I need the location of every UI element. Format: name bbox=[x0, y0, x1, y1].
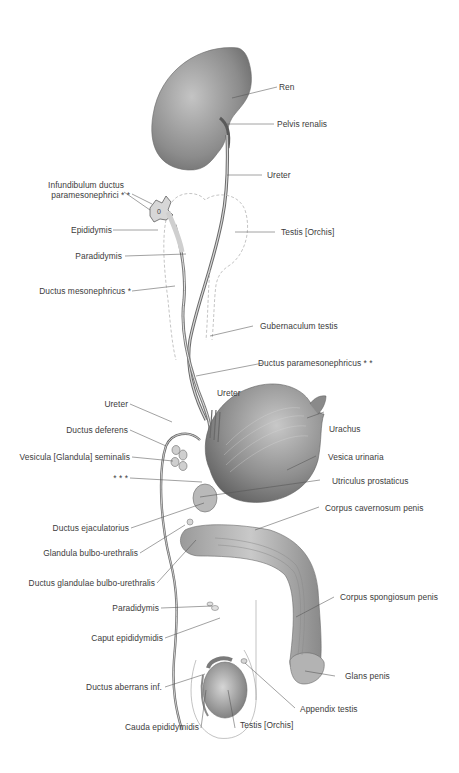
label-caput-epididymidis: Caput epididymidis bbox=[60, 633, 163, 643]
label-cauda-epididymidis: Cauda epididymidis bbox=[100, 722, 199, 732]
label-testis-top: Testis [Orchis] bbox=[281, 227, 334, 237]
label-glandula-bulbo: Glandula bulbo-urethralis bbox=[20, 548, 138, 558]
label-ductus-ejaculatorius: Ductus ejaculatorius bbox=[30, 523, 129, 533]
seminal-vesicle bbox=[171, 446, 187, 471]
label-vesica-urinaria: Vesica urinaria bbox=[328, 452, 384, 462]
testis bbox=[202, 602, 247, 718]
infundibulum: 0 bbox=[150, 196, 182, 252]
bladder bbox=[205, 384, 326, 502]
label-glans-penis: Glans penis bbox=[345, 671, 390, 681]
label-ureter-mid: Ureter bbox=[217, 388, 241, 398]
label-urachus: Urachus bbox=[329, 424, 361, 434]
anatomy-illustration: 0 bbox=[0, 0, 459, 773]
label-ureter-top: Ureter bbox=[267, 170, 291, 180]
label-appendix-testis: Appendix testis bbox=[300, 704, 358, 714]
label-triple-star: * * * bbox=[80, 473, 128, 483]
label-testis-bottom: Testis [Orchis] bbox=[240, 720, 293, 730]
label-corpus-spongiosum: Corpus spongiosum penis bbox=[340, 592, 438, 602]
label-paradidymis-bottom: Paradidymis bbox=[60, 603, 159, 613]
ductus-deferens bbox=[161, 434, 200, 730]
label-ductus-glandulae-bulbo: Ductus glandulae bulbo-urethralis bbox=[20, 578, 155, 588]
label-pelvis-renalis: Pelvis renalis bbox=[277, 119, 327, 129]
label-ureter-left: Ureter bbox=[60, 399, 128, 409]
label-corpus-cavernosum: Corpus cavernosum penis bbox=[325, 503, 423, 513]
label-ductus-paramesonephricus: Ductus paramesonephricus * * bbox=[258, 358, 373, 368]
label-ductus-aberrans: Ductus aberrans inf. bbox=[60, 682, 162, 692]
label-gubernaculum: Gubernaculum testis bbox=[260, 321, 338, 331]
label-paradidymis-top: Paradidymis bbox=[40, 251, 122, 261]
label-epididymis: Epididymis bbox=[40, 225, 112, 235]
label-ductus-mesonephricus: Ductus mesonephricus * bbox=[20, 286, 131, 296]
label-infundibulum-2: paramesonephrici * * bbox=[40, 190, 130, 200]
penis bbox=[180, 525, 324, 684]
label-ductus-deferens: Ductus deferens bbox=[40, 425, 128, 435]
label-utriculus-prostaticus: Utriculus prostaticus bbox=[332, 476, 408, 486]
kidney bbox=[152, 48, 252, 170]
label-ren: Ren bbox=[279, 82, 295, 92]
svg-text:0: 0 bbox=[157, 208, 161, 215]
label-vesicula-seminalis: Vesicula [Glandula] seminalis bbox=[10, 452, 130, 462]
prostate bbox=[187, 484, 217, 525]
label-infundibulum-1: Infundibulum ductus bbox=[40, 180, 124, 190]
